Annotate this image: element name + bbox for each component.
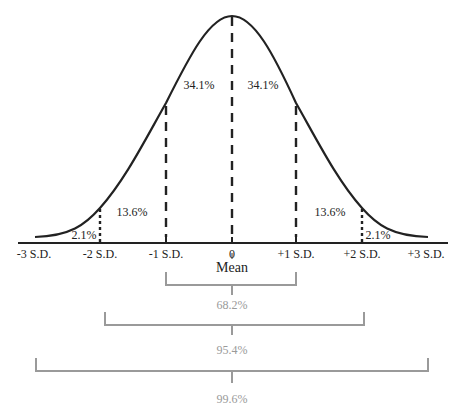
region-label-plus1-plus2: 13.6% — [315, 205, 346, 220]
bracket-label-95: 95.4% — [217, 343, 248, 358]
region-label-minus1-0: 34.1% — [184, 78, 215, 93]
region-label-minus2-minus1: 13.6% — [117, 205, 148, 220]
bracket-label-99: 99.6% — [217, 392, 248, 407]
sd-dashed-lines — [166, 17, 296, 237]
tick-label-minus2: -2 S.D. — [83, 247, 117, 262]
tick-label-minus1: -1 S.D. — [149, 247, 183, 262]
bracket-99 — [36, 358, 428, 371]
tick-label-plus3: +3 S.D. — [407, 247, 444, 262]
region-label-plus2-plus3: 2.1% — [366, 228, 391, 243]
bracket-95 — [105, 312, 364, 325]
tick-label-plus1: +1 S.D. — [277, 247, 314, 262]
region-label-minus3-minus2: 2.1% — [72, 228, 97, 243]
tick-label-plus2: +2 S.D. — [343, 247, 380, 262]
tick-label-minus3: -3 S.D. — [17, 247, 51, 262]
bracket-label-68: 68.2% — [217, 298, 248, 313]
region-label-0-plus1: 34.1% — [248, 78, 279, 93]
mean-label: Mean — [216, 260, 248, 276]
